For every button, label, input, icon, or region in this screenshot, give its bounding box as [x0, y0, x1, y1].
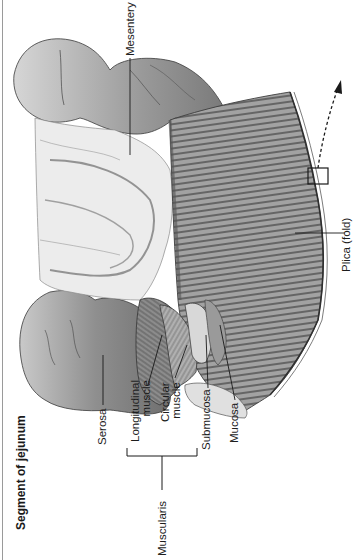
- label-plica: Plica (fold): [340, 218, 352, 272]
- label-mesentery: Mesentery: [124, 2, 136, 56]
- label-serosa: Serosa: [96, 409, 108, 445]
- jejunum-illustration: [0, 0, 363, 560]
- label-mucosa: Mucosa: [228, 403, 240, 443]
- label-circular-muscle: Circular muscle: [160, 382, 182, 422]
- jejunum-diagram: Segment of jejunum Serosa Longitudinal m…: [0, 0, 363, 560]
- figure-title: Segment of jejunum: [14, 415, 28, 530]
- label-longitudinal-muscle: Longitudinal muscle: [130, 380, 152, 442]
- label-submucosa: Submucosa: [200, 389, 212, 450]
- dashed-arrow: [318, 88, 338, 168]
- label-longitudinal-line2: muscle: [141, 380, 152, 442]
- arrow-head-icon: [334, 80, 342, 94]
- label-circular-line2: muscle: [171, 382, 182, 422]
- muscularis-bracket: [127, 448, 197, 456]
- label-muscularis: Muscularis: [156, 501, 168, 556]
